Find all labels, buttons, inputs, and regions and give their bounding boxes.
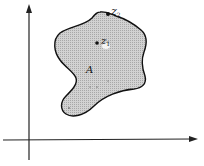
- label-z2-subscript: 2: [117, 11, 121, 18]
- arrow-right-icon: [189, 136, 198, 142]
- label-z1-subscript: 1: [106, 40, 110, 47]
- horizontal-axis: [3, 136, 198, 142]
- diagram-canvas: z2 z1 A: [0, 0, 204, 166]
- arrow-up-icon: [26, 4, 32, 13]
- label-z2: z2: [111, 6, 121, 18]
- diagram-svg: [0, 0, 204, 166]
- label-region-a: A: [86, 65, 93, 75]
- label-z1: z1: [101, 36, 110, 47]
- point-z1: [95, 41, 99, 45]
- vertical-axis: [26, 4, 32, 160]
- point-z2: [106, 12, 110, 16]
- region-a: [55, 12, 147, 116]
